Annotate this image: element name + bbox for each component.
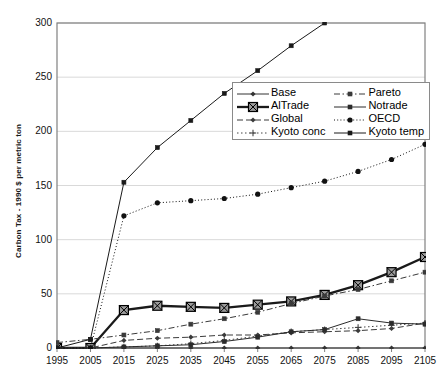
- legend-item-notrade[interactable]: Notrade: [333, 98, 426, 111]
- carbon-tax-line-chart: Carbon Tax - 1990 $ per metric ton 05010…: [0, 0, 443, 389]
- legend-item-kyoto-conc[interactable]: Kyoto conc: [236, 124, 327, 137]
- y-tick-50: 50: [18, 288, 52, 299]
- legend-label-altrade: AlTrade: [270, 99, 309, 111]
- y-tick-150: 150: [18, 180, 52, 191]
- y-tick-250: 250: [18, 71, 52, 82]
- legend-swatch-notrade: [333, 99, 367, 111]
- y-tick-0: 0: [18, 342, 52, 353]
- legend-swatch-altrade: [236, 99, 270, 111]
- legend-item-base[interactable]: Base: [236, 85, 327, 98]
- legend-swatch-kyoto-conc: [236, 125, 270, 137]
- legend-swatch-base: [236, 86, 270, 98]
- legend-item-pareto[interactable]: Pareto: [333, 85, 426, 98]
- legend-label-notrade: Notrade: [367, 99, 407, 111]
- series-notrade: [55, 317, 427, 350]
- legend-item-kyoto-temp[interactable]: Kyoto temp: [333, 124, 426, 137]
- y-tick-100: 100: [18, 234, 52, 245]
- legend: BaseParetoAlTradeNotradeGlobalOECDKyoto …: [232, 82, 430, 140]
- legend-swatch-kyoto-temp: [333, 125, 367, 137]
- legend-label-kyoto-conc: Kyoto conc: [270, 125, 325, 137]
- series-altrade: [53, 253, 430, 353]
- y-tick-300: 300: [18, 17, 52, 28]
- y-tick-200: 200: [18, 125, 52, 136]
- legend-swatch-oecd: [333, 112, 367, 124]
- legend-label-global: Global: [270, 112, 303, 124]
- legend-label-base: Base: [270, 86, 296, 98]
- legend-label-oecd: OECD: [367, 112, 400, 124]
- legend-label-kyoto-temp: Kyoto temp: [367, 125, 424, 137]
- legend-swatch-global: [236, 112, 270, 124]
- legend-label-pareto: Pareto: [367, 86, 400, 98]
- series-base: [54, 345, 427, 350]
- legend-swatch-pareto: [333, 86, 367, 98]
- legend-item-altrade[interactable]: AlTrade: [236, 98, 327, 111]
- legend-item-oecd[interactable]: OECD: [333, 111, 426, 124]
- x-tick-2105: 2105: [405, 355, 443, 366]
- legend-item-global[interactable]: Global: [236, 111, 327, 124]
- plot-area: [0, 0, 443, 389]
